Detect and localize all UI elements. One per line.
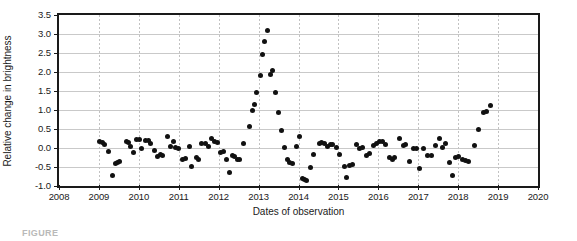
y-axis-tick [54, 129, 59, 130]
data-point [273, 90, 278, 95]
data-point [171, 139, 176, 144]
y-axis-title: Relative change in brightness [0, 13, 14, 188]
x-axis-tick [99, 185, 100, 190]
data-point [241, 141, 246, 146]
y-axis-tick-label: 1.5 [17, 86, 51, 96]
y-axis-tick-label: 3.0 [17, 29, 51, 39]
data-point [342, 164, 347, 169]
data-point [344, 175, 349, 180]
gridline-vertical [99, 15, 100, 186]
x-axis-tick [59, 185, 60, 190]
data-point [290, 161, 295, 166]
data-point [221, 149, 226, 154]
data-point [152, 148, 157, 153]
data-point [260, 52, 265, 57]
data-point [414, 146, 419, 151]
data-point [383, 142, 388, 147]
x-axis-tick [179, 185, 180, 190]
data-point [308, 165, 313, 170]
x-axis-tick-label: 2020 [516, 192, 560, 202]
data-point [450, 173, 455, 178]
gridline-vertical [418, 15, 419, 186]
data-point [183, 156, 188, 161]
data-point [187, 144, 192, 149]
data-point [403, 142, 408, 147]
data-point [206, 144, 211, 149]
data-point [189, 164, 194, 169]
x-axis-title: Dates of observation [57, 206, 540, 217]
x-axis-tick [498, 185, 499, 190]
y-axis-tick-label: 2.5 [17, 48, 51, 58]
data-point [176, 146, 181, 151]
data-point [131, 150, 136, 155]
data-point [337, 152, 342, 157]
y-axis-title-text: Relative change in brightness [2, 35, 13, 166]
data-point [196, 157, 201, 162]
gridline-vertical [458, 15, 459, 186]
x-axis-tick [378, 185, 379, 190]
data-point [392, 155, 397, 160]
x-axis-tick-label: 2012 [197, 192, 241, 202]
data-point [407, 159, 412, 164]
x-axis-tick-label: 2015 [316, 192, 360, 202]
data-point [488, 103, 493, 108]
data-point [334, 145, 339, 150]
y-axis-tick-label: 3.5 [17, 10, 51, 20]
data-point [227, 170, 232, 175]
y-axis-tick-label: 0.5 [17, 124, 51, 134]
figure-caption: FIGURE [22, 228, 58, 238]
data-point [297, 134, 302, 139]
figure-container: Relative change in brightness 3.53.02.52… [0, 0, 577, 241]
data-point [160, 153, 165, 158]
x-axis-tick [299, 185, 300, 190]
y-axis-tick [54, 148, 59, 149]
gridline-vertical [219, 15, 220, 186]
plot-area [59, 15, 538, 186]
data-point [262, 39, 267, 44]
gridline-vertical [378, 15, 379, 186]
data-point [215, 140, 220, 145]
x-axis-tick-label: 2010 [117, 192, 161, 202]
data-point [148, 141, 153, 146]
data-point [258, 73, 263, 78]
x-axis-tick-label: 2016 [356, 192, 400, 202]
y-axis-tick-label: 0.0 [17, 143, 51, 153]
data-point [139, 146, 144, 151]
gridline-vertical [259, 15, 260, 186]
gridline-vertical [299, 15, 300, 186]
data-point [110, 173, 115, 178]
data-point [247, 124, 252, 129]
data-point [128, 144, 133, 149]
y-axis-tick-label: 1.0 [17, 105, 51, 115]
y-axis-tick [54, 34, 59, 35]
data-point [429, 153, 434, 158]
data-point [304, 178, 309, 183]
y-axis-tick [54, 110, 59, 111]
data-point [367, 151, 372, 156]
data-point [472, 143, 477, 148]
x-axis-tick [139, 185, 140, 190]
data-point [476, 127, 481, 132]
y-axis-tick [54, 15, 59, 16]
data-point [117, 159, 122, 164]
x-axis-tick-label: 2013 [237, 192, 281, 202]
data-point [250, 108, 255, 113]
data-point [447, 160, 452, 165]
y-axis-tick-label: -1.0 [17, 181, 51, 191]
data-point [294, 144, 299, 149]
data-point [137, 137, 142, 142]
data-point [397, 136, 402, 141]
data-point [106, 149, 111, 154]
data-point [102, 142, 107, 147]
y-axis-tick [54, 91, 59, 92]
plot-frame [57, 13, 540, 188]
data-point [466, 159, 471, 164]
data-point [279, 128, 284, 133]
x-axis-tick [538, 185, 539, 190]
data-point [484, 109, 489, 114]
y-axis-tick-label: 2.0 [17, 67, 51, 77]
y-axis-tick [54, 53, 59, 54]
x-axis-tick-label: 2009 [77, 192, 121, 202]
gridline-vertical [338, 15, 339, 186]
y-axis-tick [54, 167, 59, 168]
